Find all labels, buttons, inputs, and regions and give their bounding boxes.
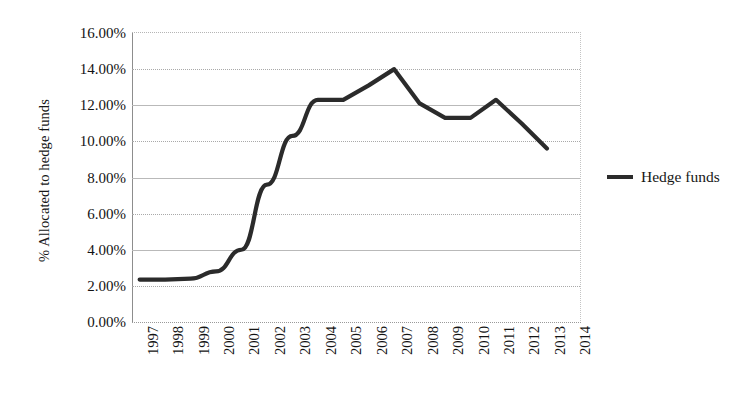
legend-label-hedge-funds: Hedge funds bbox=[641, 168, 720, 186]
y-axis-tick-label: 2.00% bbox=[52, 278, 126, 293]
series-hedge-funds bbox=[132, 33, 580, 322]
series-line-hedge-funds bbox=[140, 69, 547, 279]
x-axis-tick-label: 2005 bbox=[349, 326, 364, 355]
y-axis-title: % Allocated to hedge funds bbox=[36, 51, 53, 311]
legend: Hedge funds bbox=[607, 168, 720, 186]
x-axis-tick-label: 2000 bbox=[222, 326, 237, 355]
x-axis-tick-labels: 1997199819992000200120022003200420052006… bbox=[132, 326, 580, 392]
plot-area bbox=[132, 33, 580, 322]
x-axis-tick-label: 2009 bbox=[451, 326, 466, 355]
x-axis-tick-label: 1998 bbox=[171, 326, 186, 355]
y-axis-tick-label: 4.00% bbox=[52, 242, 126, 257]
x-axis-tick-label: 2007 bbox=[400, 326, 415, 355]
plot-right-border bbox=[580, 32, 581, 323]
y-axis-tick-labels: 0.00%2.00%4.00%6.00%8.00%10.00%12.00%14.… bbox=[52, 33, 126, 322]
y-axis-tick-label: 0.00% bbox=[52, 315, 126, 330]
y-axis-tick-label: 12.00% bbox=[52, 98, 126, 113]
x-axis-tick-label: 2014 bbox=[578, 326, 593, 355]
x-axis-tick-label: 2010 bbox=[477, 326, 492, 355]
x-axis-tick-label: 2001 bbox=[247, 326, 262, 355]
x-axis-tick-label: 2013 bbox=[553, 326, 568, 355]
x-axis-tick-label: 2011 bbox=[502, 326, 517, 354]
x-axis-tick-label: 2012 bbox=[527, 326, 542, 355]
x-axis-tick-label: 2003 bbox=[298, 326, 313, 355]
y-axis-tick-label: 6.00% bbox=[52, 206, 126, 221]
y-axis-tick-label: 8.00% bbox=[52, 170, 126, 185]
x-axis-tick-label: 2008 bbox=[426, 326, 441, 355]
y-axis-tick-label: 10.00% bbox=[52, 134, 126, 149]
y-axis-tick-label: 14.00% bbox=[52, 62, 126, 77]
line-chart: % Allocated to hedge funds 0.00%2.00%4.0… bbox=[0, 0, 749, 393]
legend-swatch-hedge-funds bbox=[607, 175, 633, 179]
y-axis-tick-label: 16.00% bbox=[52, 26, 126, 41]
x-axis-tick-label: 1997 bbox=[146, 326, 161, 355]
x-axis-tick-label: 2006 bbox=[375, 326, 390, 355]
x-axis-line bbox=[132, 322, 581, 323]
x-axis-tick-label: 2004 bbox=[324, 326, 339, 355]
x-axis-tick-label: 2002 bbox=[273, 326, 288, 355]
x-axis-tick-label: 1999 bbox=[197, 326, 212, 355]
